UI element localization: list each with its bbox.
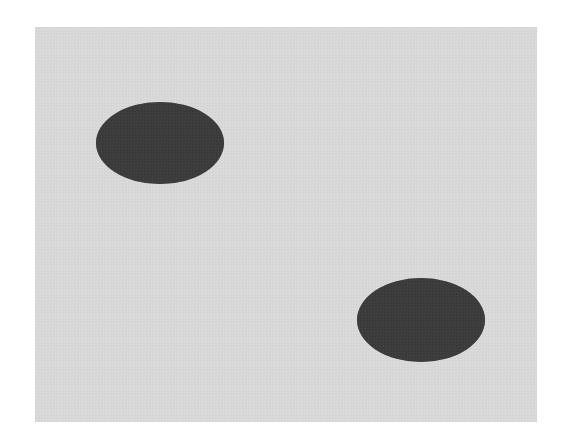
- ellipse-lower-right: [357, 278, 485, 362]
- ellipse-upper-left-tone: [96, 102, 224, 184]
- figure-svg: [0, 0, 567, 445]
- gray-field: [35, 27, 537, 422]
- ellipse-upper-left: [96, 102, 224, 184]
- ellipse-lower-right-tone: [357, 278, 485, 362]
- figure-canvas: Scanned halftone figure showing two dark…: [0, 0, 567, 445]
- gray-field-tone: [35, 27, 537, 422]
